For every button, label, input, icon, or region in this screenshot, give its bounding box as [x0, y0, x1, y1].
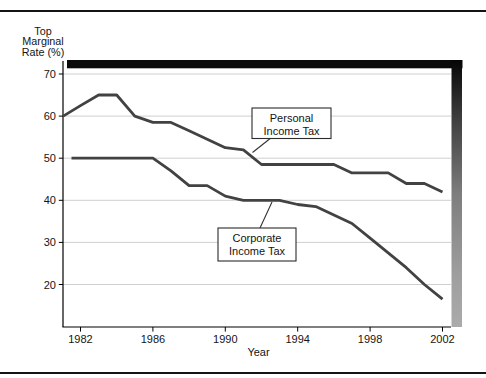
personal-income-tax-callout-label-line-1: Personal — [270, 112, 313, 124]
x-tick-label-1998: 1998 — [358, 333, 382, 345]
y-tick-label-20: 20 — [44, 279, 56, 291]
y-tick-label-40: 40 — [44, 194, 56, 206]
y-tick-label-30: 30 — [44, 236, 56, 248]
x-tick-label-1986: 1986 — [141, 333, 165, 345]
personal-income-tax-callout-leader — [253, 138, 271, 152]
corporate-income-tax-callout-label-line-1: Corporate — [233, 232, 282, 244]
corporate-income-tax-callout-label-line-2: Income Tax — [229, 245, 286, 257]
figure-page: Top Marginal Rate (%) 203040506070198219… — [0, 0, 486, 378]
corporate-income-tax-callout-leader — [260, 202, 272, 228]
x-tick-label-2002: 2002 — [430, 333, 454, 345]
plot-right-shadow-bar — [452, 60, 463, 327]
y-tick-label-60: 60 — [44, 110, 56, 122]
plot-top-shadow-bar — [67, 60, 463, 68]
y-tick-label-70: 70 — [44, 68, 56, 80]
x-tick-label-1990: 1990 — [213, 333, 237, 345]
y-tick-label-50: 50 — [44, 152, 56, 164]
x-axis-title: Year — [247, 346, 270, 358]
x-tick-label-1982: 1982 — [68, 333, 92, 345]
x-tick-label-1994: 1994 — [285, 333, 309, 345]
personal-income-tax-callout-label-line-2: Income Tax — [263, 125, 320, 137]
chart-canvas: 203040506070198219861990199419982002Year… — [0, 0, 486, 378]
